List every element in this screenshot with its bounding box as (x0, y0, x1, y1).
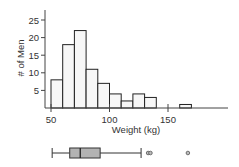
histogram-bar (51, 80, 63, 108)
boxplot-outlier (186, 151, 190, 155)
histogram-bar (63, 45, 75, 108)
y-axis-title: # of Men (15, 40, 26, 77)
histogram-bars (51, 31, 191, 108)
y-tick-label: 5 (34, 85, 39, 96)
histogram-bar (74, 31, 86, 108)
histogram-bar (110, 94, 122, 108)
histogram-bar (121, 101, 133, 108)
weight-histogram-chart: 510152025 50100150 # of Men Weight (kg) (0, 0, 239, 167)
histogram-bar (98, 83, 110, 108)
y-tick-label: 25 (28, 15, 39, 26)
weight-boxplot (52, 148, 190, 158)
x-axis-title: Weight (kg) (112, 124, 160, 135)
y-axis-ticks: 510152025 (28, 15, 45, 96)
histogram-bar (86, 69, 98, 108)
y-tick-label: 20 (28, 32, 39, 43)
boxplot-outlier (149, 151, 153, 155)
histogram-bar (133, 94, 145, 108)
boxplot-box (70, 148, 100, 158)
histogram-bar (145, 97, 157, 108)
x-tick-label: 50 (46, 114, 57, 125)
histogram-bar (180, 104, 192, 108)
y-tick-label: 15 (28, 50, 39, 61)
x-tick-label: 150 (160, 114, 176, 125)
y-tick-label: 10 (28, 67, 39, 78)
